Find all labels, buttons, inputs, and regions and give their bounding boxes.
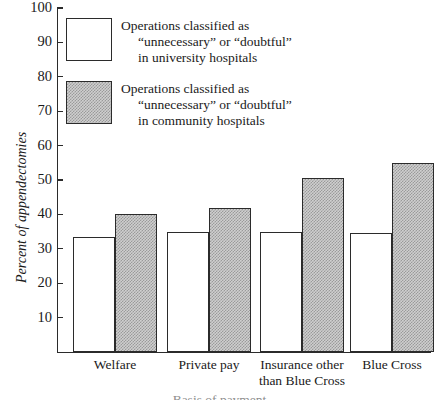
legend-label: Operations classified as“unnecessary” or… — [121, 18, 292, 66]
legend-label: Operations classified as“unnecessary” or… — [121, 81, 292, 129]
bar-community — [302, 178, 344, 352]
y-axis-tick-label: 50 — [18, 172, 52, 187]
legend-entry: Operations classified as“unnecessary” or… — [66, 81, 292, 129]
x-axis-category-label-line: than Blue Cross — [222, 373, 382, 389]
legend-label-line: in university hospitals — [121, 50, 292, 66]
bar-community — [115, 214, 157, 352]
y-axis-tick-label: 20 — [18, 275, 52, 290]
y-axis-tick-label: 90 — [18, 34, 52, 49]
legend-label-line: Operations classified as — [121, 81, 292, 97]
bar-university — [167, 232, 209, 352]
y-axis-tick-label: 100 — [18, 0, 52, 15]
bar-university — [350, 233, 392, 352]
y-axis-tick-label: 80 — [18, 69, 52, 84]
legend-label-line: “unnecessary” or “doubtful” — [121, 34, 292, 50]
legend-label-line: Operations classified as — [121, 18, 292, 34]
legend-swatch-community — [66, 81, 112, 124]
bar-university — [73, 237, 115, 352]
y-axis-tick-label: 30 — [18, 241, 52, 256]
legend-label-line: “unnecessary” or “doubtful” — [121, 97, 292, 113]
x-axis-category-label-line: Blue Cross — [312, 357, 439, 373]
y-axis-tick-label: 40 — [18, 206, 52, 221]
y-axis-tick-label: 10 — [18, 310, 52, 325]
x-axis-title: Basis of payment — [0, 392, 439, 400]
legend-swatch-university — [66, 18, 112, 61]
y-axis-tick-label: 60 — [18, 138, 52, 153]
bar-community — [392, 163, 434, 352]
legend-label-line: in community hospitals — [121, 113, 292, 129]
x-axis-category-label: Blue Cross — [312, 357, 439, 373]
bar-community — [209, 208, 251, 352]
y-axis-tick-label: 70 — [18, 103, 52, 118]
bar-university — [260, 232, 302, 352]
legend-entry: Operations classified as“unnecessary” or… — [66, 18, 292, 66]
appendectomy-bar-chart: Percent of appendectomies 10203040506070… — [0, 0, 439, 400]
